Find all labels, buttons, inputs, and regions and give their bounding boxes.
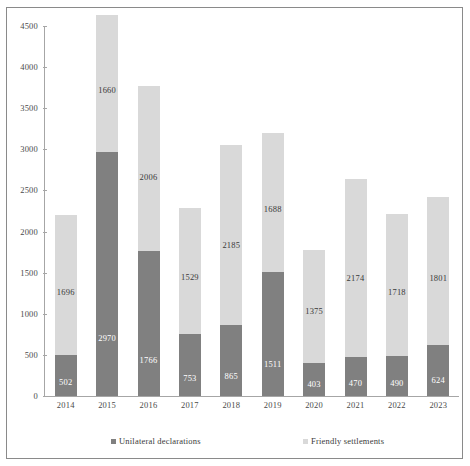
legend-label: Unilateral declarations [119,436,201,446]
x-axis-label-2020: 2020 [293,400,334,410]
bar-value-label-friendly: 1718 [386,288,408,297]
legend-swatch-icon [303,439,308,444]
chart-page: 050010001500200025003000350040004500 502… [0,0,470,466]
x-axis-label-2021: 2021 [335,400,376,410]
bar-segment-friendly[interactable] [96,15,118,151]
bar-group[interactable]: 8652185 [220,26,242,396]
bar-value-label-unilateral: 403 [303,380,325,389]
bar-segment-unilateral[interactable] [262,272,284,396]
bar-value-label-unilateral: 1511 [262,360,284,369]
y-axis-tick-label: 2500 [20,185,38,195]
chart-legend: Unilateral declarationsFriendly settleme… [13,436,470,450]
bar-value-label-unilateral: 502 [55,378,77,387]
bar-value-label-unilateral: 490 [386,379,408,388]
bar-value-label-unilateral: 1766 [138,356,160,365]
bar-value-label-unilateral: 2970 [96,334,118,343]
bar-segment-friendly[interactable] [262,133,284,272]
bar-segment-unilateral[interactable] [345,357,367,396]
bar-segment-unilateral[interactable] [220,325,242,396]
y-axis-tick [43,396,47,397]
bar-group[interactable]: 4901718 [386,26,408,396]
x-axis-label-2016: 2016 [128,400,169,410]
x-axis-label-2022: 2022 [376,400,417,410]
legend-swatch-icon [111,439,116,444]
bar-value-label-friendly: 1660 [96,86,118,95]
x-axis-label-2019: 2019 [252,400,293,410]
bar-group[interactable]: 4031375 [303,26,325,396]
bar-segment-friendly[interactable] [386,214,408,355]
bar-group[interactable]: 7531529 [179,26,201,396]
bar-group[interactable]: 17662006 [138,26,160,396]
bar-value-label-friendly: 1688 [262,205,284,214]
bar-value-label-unilateral: 624 [427,376,449,385]
bar-series-container: 5021696297016601766200675315298652185151… [45,26,459,396]
bar-segment-unilateral[interactable] [179,334,201,396]
x-axis-label-2018: 2018 [211,400,252,410]
bar-group[interactable]: 29701660 [96,26,118,396]
bar-value-label-friendly: 1529 [179,273,201,282]
bar-value-label-friendly: 1375 [303,307,325,316]
bar-segment-unilateral[interactable] [96,152,118,396]
x-axis-label-2014: 2014 [45,400,86,410]
y-axis-tick-label: 3500 [20,103,38,113]
y-axis-tick-label: 4000 [20,62,38,72]
bar-value-label-friendly: 2185 [220,241,242,250]
y-axis-tick-label: 3000 [20,144,38,154]
bar-value-label-friendly: 2006 [138,173,160,182]
x-axis-label-2015: 2015 [86,400,127,410]
plot-area: 050010001500200025003000350040004500 502… [44,26,459,396]
bar-group[interactable]: 5021696 [55,26,77,396]
x-axis-label-2023: 2023 [418,400,459,410]
bar-segment-friendly[interactable] [138,86,160,251]
legend-label: Friendly settlements [311,436,384,446]
legend-item[interactable]: Unilateral declarations [111,436,201,446]
bar-segment-unilateral[interactable] [55,355,77,396]
bar-group[interactable]: 4702174 [345,26,367,396]
y-axis-tick-label: 2000 [20,227,38,237]
bar-segment-unilateral[interactable] [427,345,449,396]
bar-segment-friendly[interactable] [55,215,77,354]
bar-value-label-unilateral: 470 [345,379,367,388]
y-axis-tick-label: 1500 [20,268,38,278]
y-axis-tick-label: 0 [34,391,38,401]
bar-segment-unilateral[interactable] [386,356,408,396]
figure-frame: 050010001500200025003000350040004500 502… [6,7,463,459]
bar-value-label-unilateral: 753 [179,374,201,383]
y-axis-tick-label: 1000 [20,309,38,319]
y-axis-tick-label: 4500 [20,21,38,31]
bar-value-label-friendly: 1801 [427,274,449,283]
bar-value-label-friendly: 1696 [55,288,77,297]
x-axis-label-2017: 2017 [169,400,210,410]
legend-item[interactable]: Friendly settlements [303,436,384,446]
bar-group[interactable]: 6241801 [427,26,449,396]
bar-segment-friendly[interactable] [427,197,449,345]
x-axis-line [44,396,459,397]
bar-value-label-friendly: 2174 [345,274,367,283]
x-axis-labels: 2014201520162017201820192020202120222023 [45,400,459,414]
bar-group[interactable]: 15111688 [262,26,284,396]
bar-segment-friendly[interactable] [220,145,242,325]
bar-value-label-unilateral: 865 [220,372,242,381]
bar-segment-friendly[interactable] [345,179,367,358]
y-axis-tick-label: 500 [25,350,38,360]
bar-segment-unilateral[interactable] [138,251,160,396]
